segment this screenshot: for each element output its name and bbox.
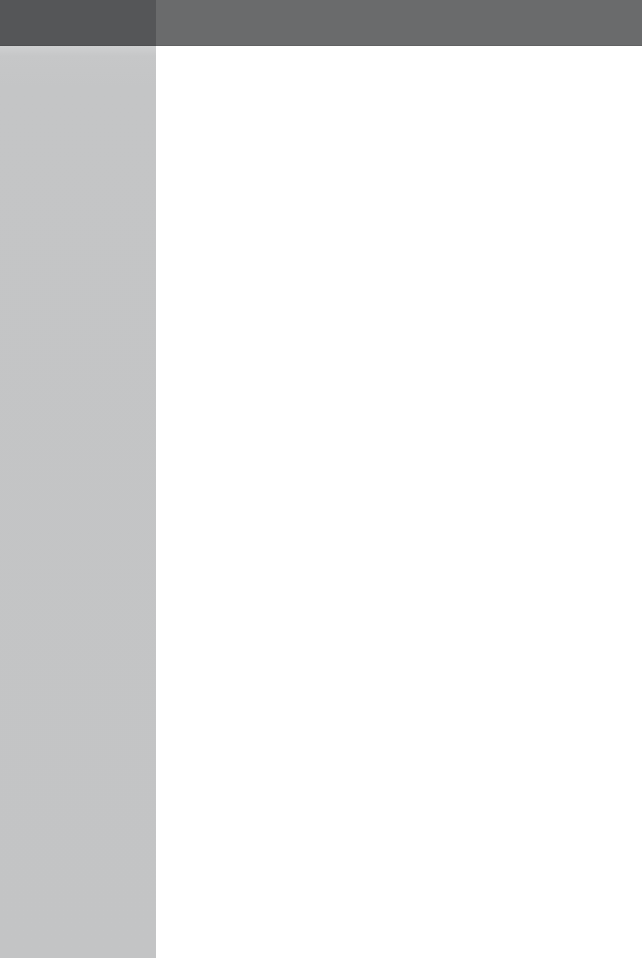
body-area [0, 46, 642, 958]
content-body [156, 46, 642, 958]
titlebar-left-segment[interactable] [0, 0, 156, 46]
titlebar [0, 0, 642, 46]
app-window [0, 0, 642, 958]
content-pane[interactable] [156, 46, 642, 958]
titlebar-right-segment[interactable] [156, 0, 642, 46]
sidebar[interactable] [0, 46, 156, 958]
